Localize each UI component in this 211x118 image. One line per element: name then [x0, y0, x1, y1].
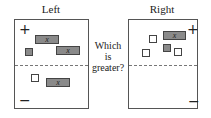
- left-panel: + − x x x: [14, 19, 89, 109]
- x-tile: x: [35, 35, 59, 44]
- plus-icon: +: [187, 23, 199, 35]
- question-line-3: greater?: [86, 62, 130, 73]
- minus-icon: −: [19, 94, 31, 106]
- negative-unit-tile: [25, 48, 33, 56]
- positive-unit-tile: [174, 48, 182, 56]
- plus-icon: +: [19, 23, 31, 35]
- question-text: Which is greater?: [86, 40, 130, 73]
- right-panel: + − x: [128, 19, 198, 109]
- positive-unit-tile: [31, 74, 39, 82]
- x-tile: x: [163, 31, 186, 40]
- left-title: Left: [16, 3, 86, 15]
- x-label: x: [66, 46, 70, 55]
- x-tile: x: [56, 46, 80, 55]
- question-line-1: Which: [86, 40, 130, 51]
- left-divider: [15, 65, 88, 66]
- negative-unit-tile: [163, 44, 171, 52]
- x-label: x: [56, 78, 60, 87]
- positive-unit-tile: [142, 49, 150, 57]
- x-label: x: [173, 31, 177, 40]
- positive-unit-tile: [149, 35, 157, 43]
- minus-icon: −: [188, 95, 200, 107]
- question-line-2: is: [86, 51, 130, 62]
- x-label: x: [45, 35, 49, 44]
- right-divider: [129, 65, 197, 66]
- x-tile: x: [46, 78, 70, 87]
- right-title: Right: [127, 3, 197, 15]
